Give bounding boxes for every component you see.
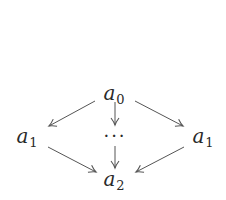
node-a2-subscript: 2 bbox=[116, 178, 124, 193]
node-a1-left-base: a bbox=[16, 124, 28, 148]
node-ellipsis: ··· bbox=[103, 127, 126, 145]
node-a1-right: a1 bbox=[192, 126, 213, 149]
node-a1-left: a1 bbox=[16, 126, 37, 149]
node-a2-base: a bbox=[103, 167, 115, 191]
node-a0: a0 bbox=[103, 83, 124, 106]
node-a2: a2 bbox=[103, 169, 124, 192]
arrow-right-to-bottom bbox=[136, 147, 184, 172]
node-a0-subscript: 0 bbox=[116, 92, 124, 107]
node-a1-right-subscript: 1 bbox=[205, 135, 213, 150]
arrow-left-to-bottom bbox=[48, 147, 96, 172]
arrow-top-to-left bbox=[49, 101, 95, 126]
node-a1-right-base: a bbox=[192, 124, 204, 148]
node-a0-base: a bbox=[103, 81, 115, 105]
diagram-canvas: a0 a1 ··· a1 a2 bbox=[0, 0, 226, 200]
node-a1-left-subscript: 1 bbox=[29, 135, 37, 150]
arrow-top-to-right bbox=[135, 101, 183, 126]
